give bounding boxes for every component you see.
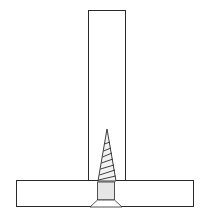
screw-joint-diagram: Screw joining a vertical board to a hori… <box>0 0 209 218</box>
diagram-svg <box>0 0 209 218</box>
screw-shank <box>98 182 115 200</box>
